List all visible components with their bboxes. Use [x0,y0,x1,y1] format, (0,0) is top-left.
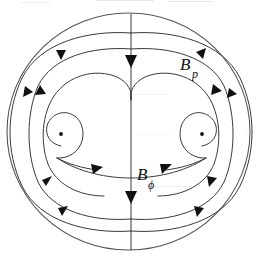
magnetic-field-diagram: B p B ϕ [0,0,257,263]
axis-arrow-lower [125,191,137,204]
right-arrow-bottom [194,206,204,217]
right-vortex-center-dot [200,132,204,136]
right-arrow-mid-right [227,88,237,98]
left-loop-inner [47,113,83,158]
label-poloidal-subscript: p [191,67,198,81]
figure-root: B p B ϕ [0,0,257,263]
left-arrow-bottom [58,206,68,216]
label-toroidal: B ϕ [137,165,154,192]
right-arrow-top [196,48,206,59]
left-arrow-lower-left [42,176,52,186]
right-vortex [131,33,252,232]
label-poloidal-symbol: B [180,55,191,74]
left-vortex-center-dot [59,132,63,136]
right-loop-inner [180,113,216,158]
right-loop-outer [131,33,252,232]
left-arrow-top [56,50,66,60]
toroidal-arrow-left [91,164,103,174]
axis-arrow-upper [125,55,137,68]
label-toroidal-subscript: ϕ [148,178,154,192]
left-arrow-mid-left [23,86,33,97]
right-arrow-lower-right [207,176,217,187]
label-toroidal-symbol: B [137,165,148,184]
left-loop-outer [10,33,131,232]
left-loop-second [29,49,131,220]
left-vortex [10,33,131,232]
right-arrow-upper-right [211,84,222,95]
